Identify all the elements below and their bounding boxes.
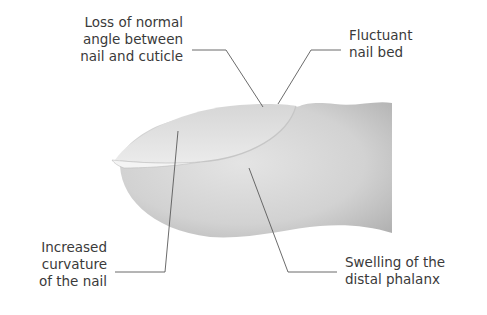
label-swelling-distal-phalanx: Swelling of the distal phalanx <box>345 254 480 288</box>
label-line: nail and cuticle <box>40 48 183 65</box>
label-line: Increased <box>10 239 107 256</box>
leader-line-nail-bed <box>278 50 341 104</box>
label-line: of the nail <box>10 273 107 290</box>
label-line: nail bed <box>349 44 469 61</box>
label-fluctuant-nail-bed: Fluctuant nail bed <box>349 27 469 61</box>
label-loss-of-angle: Loss of normal angle between nail and cu… <box>40 14 183 65</box>
label-line: Swelling of the <box>345 254 480 271</box>
label-line: curvature <box>10 256 107 273</box>
leader-line-angle <box>192 50 263 107</box>
label-line: angle between <box>40 31 183 48</box>
label-line: Fluctuant <box>349 27 469 44</box>
label-increased-curvature: Increased curvature of the nail <box>10 239 107 290</box>
label-line: distal phalanx <box>345 271 480 288</box>
clubbing-diagram: Loss of normal angle between nail and cu… <box>0 0 487 315</box>
label-line: Loss of normal <box>40 14 183 31</box>
